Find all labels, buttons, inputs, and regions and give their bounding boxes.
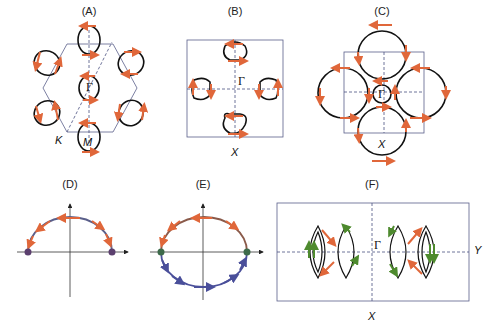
panel-f: (F) Γ Y X	[277, 178, 482, 322]
panel-label-a: (A)	[82, 5, 97, 17]
upper-ellipse-contour	[161, 217, 247, 252]
panel-e: (E)	[150, 178, 263, 300]
panel-label-b: (B)	[228, 5, 243, 17]
node-point	[109, 249, 116, 256]
gamma-point-label: Γ	[238, 74, 245, 88]
node-point	[25, 249, 32, 256]
fermi-pocket	[30, 96, 65, 130]
x-point-label: X	[367, 310, 376, 322]
gamma-point-label: Γ	[374, 238, 381, 252]
gamma-point-label: Γ	[86, 80, 93, 94]
fermi-pocket	[114, 46, 149, 80]
fermi-pocket	[114, 96, 148, 131]
spin-texture-figure: (A)	[0, 0, 490, 333]
x-point-label: X	[230, 146, 239, 158]
node-point	[244, 249, 251, 256]
panel-d: (D)	[17, 178, 128, 297]
fermi-pocket	[30, 46, 65, 80]
node-point	[158, 249, 165, 256]
panel-label-e: (E)	[196, 178, 211, 190]
fermi-pocket	[318, 68, 368, 118]
panel-b: (B) Γ X	[187, 5, 283, 158]
k-point-label: K	[55, 134, 63, 146]
y-point-label: Y	[474, 244, 482, 256]
m-point-label: M	[83, 136, 93, 148]
panel-label-d: (D)	[62, 178, 77, 190]
panel-label-f: (F)	[365, 178, 379, 190]
panel-c: (C)	[318, 5, 446, 161]
fermi-pocket	[396, 68, 446, 118]
fermi-pocket	[358, 107, 406, 161]
panel-a: (A)	[30, 5, 149, 152]
gamma-point-label: Γ	[378, 87, 385, 101]
lower-ellipse-contour	[161, 252, 247, 287]
x-point-label: X	[377, 138, 386, 150]
panel-label-c: (C)	[374, 5, 389, 17]
